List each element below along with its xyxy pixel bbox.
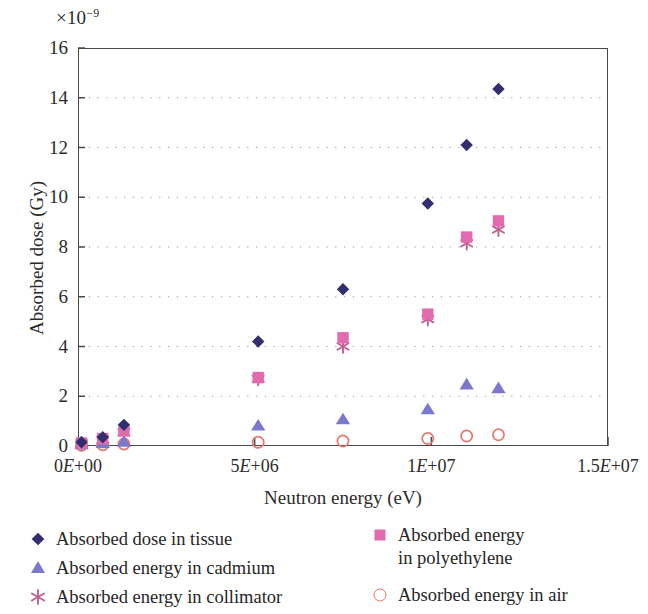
- legend-marker-cross-icon: [26, 586, 50, 608]
- data-point-diamond: [252, 335, 264, 347]
- y-tick-label-text: 16: [8, 38, 68, 57]
- data-point-square: [253, 372, 264, 383]
- legend-item-label: Absorbed energy in cadmium: [56, 557, 275, 580]
- data-point-diamond: [422, 197, 434, 209]
- legend-item[interactable]: Absorbed energy in cadmium: [26, 557, 275, 580]
- legend-marker-shape: [31, 561, 45, 573]
- legend-item-label: Absorbed energy in collimator: [56, 586, 282, 609]
- data-point-circle: [337, 435, 348, 446]
- data-points-group: [74, 83, 505, 451]
- data-point-triangle: [336, 413, 350, 425]
- x-tick-label: 0E+00: [54, 456, 102, 477]
- x-axis-title: Neutron energy (eV): [78, 487, 608, 509]
- x-tick-label: 1.5E+07: [577, 456, 639, 477]
- y-axis-title: Absorbed dose (Gy): [26, 138, 48, 378]
- x-tick-marks-group: [78, 437, 608, 446]
- data-point-diamond: [337, 283, 349, 295]
- data-point-square: [493, 215, 504, 226]
- x-tick-label: 1E+07: [407, 456, 455, 477]
- legend-marker-triangle-icon: [26, 557, 50, 579]
- legend-item[interactable]: Absorbed energy in polyethylene: [368, 524, 525, 570]
- legend-marker-diamond-icon: [26, 528, 50, 550]
- legend-item[interactable]: Absorbed dose in tissue: [26, 528, 232, 551]
- legend-marker-shape: [374, 589, 387, 602]
- legend-marker-circle-icon: [368, 584, 392, 606]
- data-point-triangle: [421, 403, 435, 415]
- y-tick-label-text: 14: [8, 88, 68, 107]
- legend-marker-shape: [375, 530, 386, 541]
- x-tick-label: 5E+06: [231, 456, 279, 477]
- y-tick-label-text: 2: [8, 386, 68, 405]
- scatter-chart-figure: ×10−9 0246810121416 0E+005E+061E+071.5E+…: [0, 0, 648, 614]
- data-point-circle: [493, 429, 504, 440]
- chart-legend: Absorbed dose in tissueAbsorbed energy i…: [26, 528, 626, 614]
- y-tick-label-text: 0: [8, 436, 68, 455]
- legend-item-label: Absorbed dose in tissue: [56, 528, 232, 551]
- y-tick-marks-group: [78, 48, 85, 446]
- plot-canvas: [0, 0, 648, 614]
- legend-marker-shape: [32, 533, 45, 546]
- data-point-triangle: [459, 378, 473, 390]
- legend-item-label: Absorbed energy in air: [398, 584, 568, 607]
- legend-item[interactable]: Absorbed energy in collimator: [26, 586, 282, 609]
- legend-marker-square-icon: [368, 524, 392, 546]
- data-point-diamond: [460, 139, 472, 151]
- legend-item-label: Absorbed energy in polyethylene: [398, 524, 525, 570]
- data-point-square: [461, 231, 472, 242]
- legend-item[interactable]: Absorbed energy in air: [368, 584, 568, 607]
- data-point-triangle: [491, 382, 505, 394]
- data-point-triangle: [251, 419, 265, 431]
- data-point-square: [337, 332, 348, 343]
- data-point-circle: [461, 430, 472, 441]
- data-point-diamond: [492, 83, 504, 95]
- data-point-square: [422, 308, 433, 319]
